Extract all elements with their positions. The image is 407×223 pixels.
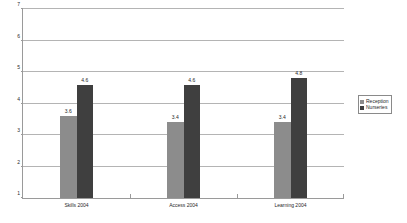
y-axis-tick-label: 7 xyxy=(17,2,20,7)
bar-group: 3.44.6Access 2004 xyxy=(130,9,237,198)
legend-swatch-icon xyxy=(360,100,364,104)
x-axis-tick-mark xyxy=(237,194,238,198)
bar-reception[interactable]: 3.4 xyxy=(274,122,291,198)
bar-nurseries[interactable]: 4.6 xyxy=(77,85,94,198)
bar-reception[interactable]: 3.4 xyxy=(167,122,184,198)
bar-group: 3.44.8Learning 2004 xyxy=(237,9,344,198)
bar-value-label: 3.4 xyxy=(172,115,179,120)
y-axis-tick-label: 5 xyxy=(17,65,20,70)
chart-legend: ReceptionNurseries xyxy=(358,95,392,114)
y-axis-tick-label: 4 xyxy=(17,96,20,101)
x-axis-tick-mark xyxy=(343,194,344,198)
bar-groups: 3.64.6Skills 20043.44.6Access 20043.44.8… xyxy=(23,9,344,198)
bar-group: 3.64.6Skills 2004 xyxy=(23,9,130,198)
bar-nurseries[interactable]: 4.6 xyxy=(184,85,201,198)
bar-pair: 3.64.6 xyxy=(60,9,93,198)
bar-chart: 1234567 3.64.6Skills 20043.44.6Access 20… xyxy=(0,0,407,223)
plot-area: 1234567 3.64.6Skills 20043.44.6Access 20… xyxy=(22,9,344,199)
bar-value-label: 4.6 xyxy=(188,78,195,83)
x-axis-tick-mark xyxy=(130,194,131,198)
y-axis-tick-label: 1 xyxy=(17,191,20,196)
bar-nurseries[interactable]: 4.8 xyxy=(291,78,308,198)
bar-pair: 3.44.8 xyxy=(274,9,307,198)
legend-item[interactable]: Nurseries xyxy=(360,105,389,110)
bar-value-label: 4.8 xyxy=(295,71,302,76)
legend-swatch-icon xyxy=(360,106,364,110)
legend-item-label: Nurseries xyxy=(366,105,387,110)
y-axis-tick-label: 2 xyxy=(17,159,20,164)
bar-value-label: 4.6 xyxy=(81,78,88,83)
bar-value-label: 3.6 xyxy=(65,109,72,114)
x-axis-category-label: Skills 2004 xyxy=(64,203,88,208)
y-axis-tick-label: 3 xyxy=(17,128,20,133)
bar-value-label: 3.4 xyxy=(279,115,286,120)
y-axis-tick-label: 6 xyxy=(17,33,20,38)
bar-reception[interactable]: 3.6 xyxy=(60,116,77,198)
x-axis-category-label: Access 2004 xyxy=(169,203,198,208)
bar-pair: 3.44.6 xyxy=(167,9,200,198)
x-axis-category-label: Learning 2004 xyxy=(275,203,307,208)
